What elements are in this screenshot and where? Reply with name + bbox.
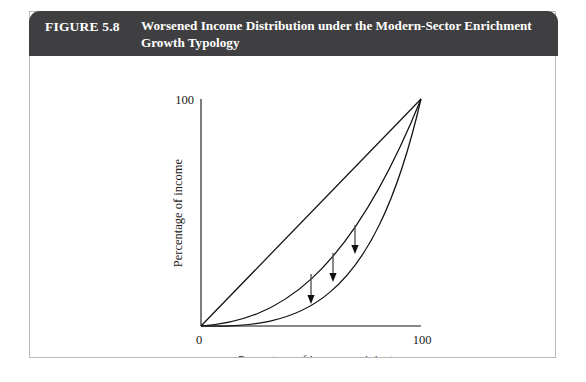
shift-arrow-3 (351, 225, 358, 254)
y-axis-tick-top: 100 (175, 93, 194, 107)
figure-number-label: FIGURE 5.8 (45, 17, 141, 35)
figure-header: FIGURE 5.8 Worsened Income Distribution … (29, 11, 558, 56)
y-axis-title: Percentage of income (171, 158, 185, 267)
figure-title-line-1: Worsened Income Distribution under the M… (141, 17, 548, 34)
shift-arrow-2 (329, 253, 336, 282)
shift-arrow-1 (307, 274, 314, 304)
figure-card: FIGURE 5.8 Worsened Income Distribution … (29, 11, 556, 358)
x-axis-tick-origin: 0 (196, 333, 202, 347)
chart-region: 100 0 100 Percentage of income Percentag… (30, 57, 555, 357)
lorenz-curve-chart: 100 0 100 Percentage of income Percentag… (30, 57, 555, 357)
x-axis-tick-max: 100 (413, 333, 432, 347)
figure-title: Worsened Income Distribution under the M… (141, 17, 548, 51)
figure-title-line-2: Growth Typology (141, 34, 548, 51)
x-axis-title: Percentage of income recipients (238, 353, 398, 357)
